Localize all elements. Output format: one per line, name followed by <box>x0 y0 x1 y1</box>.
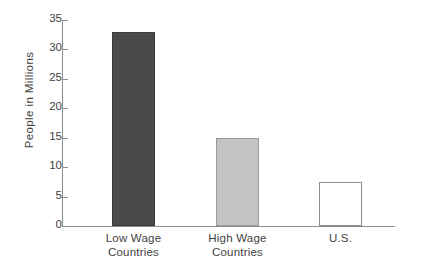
category-label-line: Countries <box>178 245 298 259</box>
category-label-line: Low Wage <box>74 231 194 245</box>
category-label-line: Countries <box>74 245 194 259</box>
category-label-2: High WageCountries <box>178 231 298 259</box>
category-label-line: U.S. <box>281 231 401 245</box>
bar-1 <box>112 32 155 226</box>
bar-chart: People in Millions 05101520253035 Low Wa… <box>0 0 421 273</box>
bar-3 <box>319 182 362 226</box>
category-label-line: High Wage <box>178 231 298 245</box>
category-label-3: U.S. <box>281 231 401 245</box>
category-label-1: Low WageCountries <box>74 231 194 259</box>
bar-2 <box>216 138 259 226</box>
